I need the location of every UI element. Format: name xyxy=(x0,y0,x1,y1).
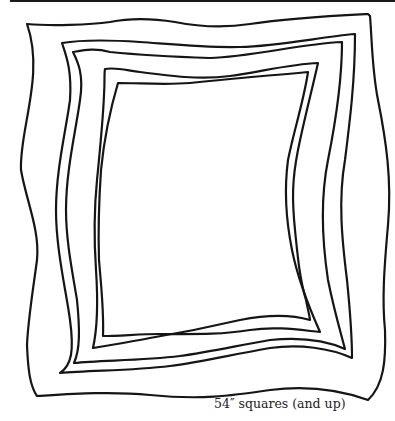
frame-2 xyxy=(56,34,355,373)
figure-caption: 54″ squares (and up) xyxy=(214,396,346,411)
frame-4 xyxy=(93,63,318,348)
frame-outer xyxy=(21,14,389,400)
frame-5 xyxy=(99,72,320,336)
frame-3 xyxy=(66,42,345,363)
nested-frames-illustration xyxy=(0,0,395,421)
